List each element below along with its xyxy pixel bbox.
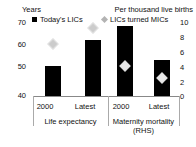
x-axis-baseline (33, 96, 180, 97)
group-label-maternity-mortality-text: Maternity mortality (113, 117, 174, 126)
right-axis-tick-8: 8 (180, 34, 194, 42)
bar-life-expectancy-latest (85, 40, 101, 96)
left-axis-tick-60: 60 (6, 41, 26, 49)
right-axis-unit-label: Per thousand live births (115, 6, 193, 14)
left-axis-tick-40: 40 (6, 92, 26, 100)
marker-life-expectancy-2000 (47, 38, 58, 49)
right-axis-tick-6: 6 (180, 49, 194, 57)
group-label-maternity-mortality-rhs: (RHS) (133, 126, 154, 135)
group-label-maternity-mortality: Maternity mortality (RHS) (106, 117, 181, 136)
group-label-life-expectancy: Life expectancy (33, 117, 108, 126)
plot-area (33, 18, 179, 96)
chart-container: Years Per thousand live births Today's L… (0, 0, 196, 147)
left-axis-tick-50: 50 (6, 63, 26, 71)
category-label-maternity-mortality-latest: Latest (142, 102, 176, 111)
marker-life-expectancy-latest (87, 22, 98, 33)
right-axis-tick-10: 10 (180, 19, 194, 27)
left-axis-unit-label: Years (22, 6, 41, 14)
bar-life-expectancy-2000 (45, 66, 61, 96)
category-label-life-expectancy-2000: 2000 (28, 102, 62, 111)
category-label-maternity-mortality-2000: 2000 (104, 102, 138, 111)
left-axis-tick-70: 70 (6, 19, 26, 27)
right-axis-tick-4: 4 (180, 64, 194, 72)
right-axis-tick-0: 0 (180, 93, 194, 101)
category-label-life-expectancy-latest: Latest (68, 102, 102, 111)
right-axis-tick-2: 2 (180, 79, 194, 87)
